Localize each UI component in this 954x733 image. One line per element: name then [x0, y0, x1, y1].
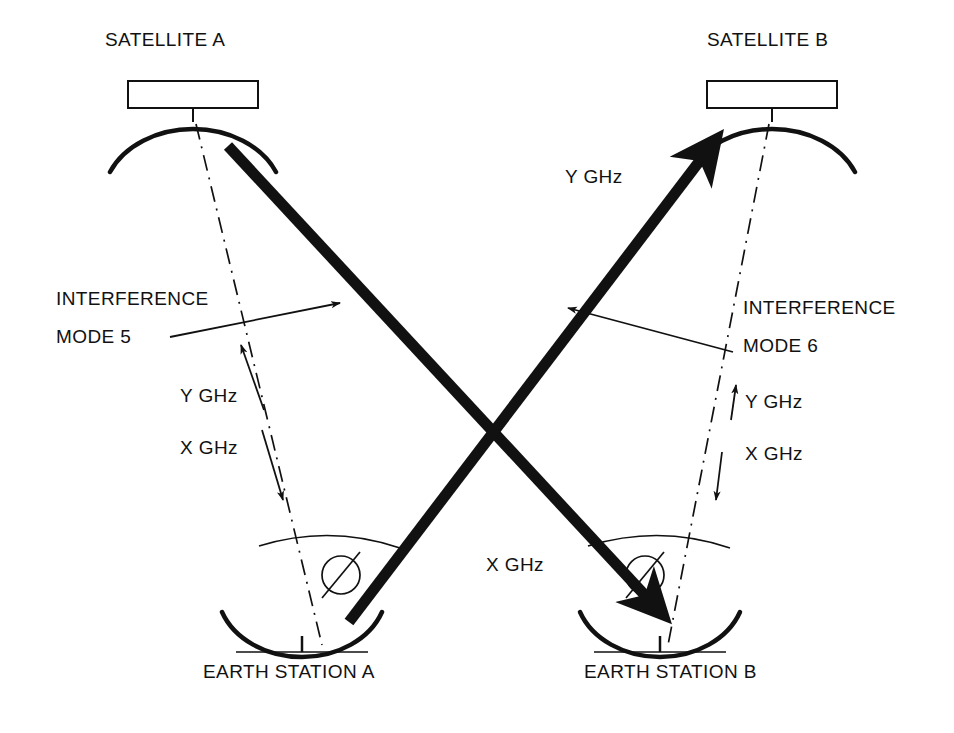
satellite-b-symbol [689, 81, 855, 172]
diagram-canvas: SATELLITE A SATELLITE B EARTH STATION A … [0, 0, 954, 733]
satellite-a-label: SATELLITE A [105, 29, 225, 51]
interference-mode-5-line1: INTERFERENCE [56, 288, 209, 310]
interference-mode-5-line2: MODE 5 [56, 326, 131, 348]
earth-station-b-beamwidth-arc [588, 535, 730, 548]
interference-mode-6-line1: INTERFERENCE [743, 297, 896, 319]
band-beam-to-satellite-b-label: Y GHz [565, 166, 623, 188]
band-right-uplink-arrow [731, 385, 736, 420]
satellite-b-dish-arc [689, 129, 855, 172]
band-right-downlink-label: X GHz [745, 443, 803, 465]
earth-station-a-angle-slash [322, 552, 360, 598]
band-right-downlink-arrow [716, 452, 722, 500]
satellite-a-body [128, 81, 258, 108]
satellite-a-symbol [110, 81, 276, 172]
satellite-interference-diagram [0, 0, 954, 733]
satellite-b-label: SATELLITE B [707, 29, 828, 51]
beam-satellite-a-to-earth-station-b [228, 146, 654, 605]
band-beam-to-earth-station-b-label: X GHz [486, 554, 544, 576]
satellite-b-body [707, 81, 837, 108]
earth-station-a-label: EARTH STATION A [203, 661, 375, 683]
beam-earth-station-a-to-satellite-b [349, 150, 708, 622]
interference-mode-6-line2: MODE 6 [743, 335, 818, 357]
earth-station-b-label: EARTH STATION B [584, 661, 757, 683]
link-path-satellite-b-earth-station-b [668, 124, 769, 645]
band-left-uplink-label: Y GHz [180, 385, 238, 407]
band-right-uplink-label: Y GHz [745, 391, 803, 413]
band-left-downlink-label: X GHz [180, 437, 238, 459]
interference-mode-6-leader-arrow [568, 308, 733, 352]
earth-station-a-beamwidth-arc [259, 535, 400, 548]
